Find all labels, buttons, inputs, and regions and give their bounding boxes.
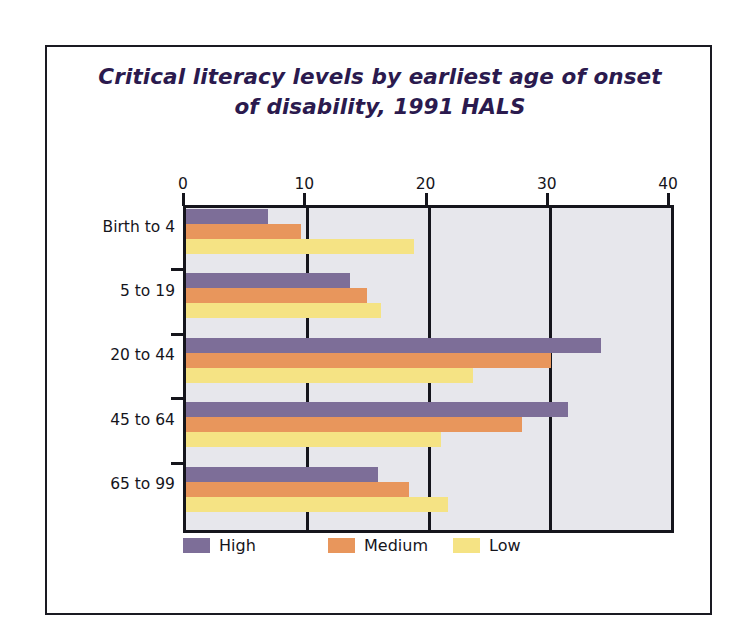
legend-label-medium: Medium bbox=[364, 536, 428, 555]
bar-5-to-19-high bbox=[186, 273, 350, 288]
legend-item-low[interactable]: Low bbox=[453, 534, 521, 556]
legend-swatch-high-icon bbox=[183, 538, 210, 553]
chart-figure: Critical literacy levels by earliest age… bbox=[0, 0, 733, 644]
x-tick-label-30: 30 bbox=[517, 175, 577, 193]
bar-65-to-99-medium bbox=[186, 482, 409, 497]
legend-swatch-low-icon bbox=[453, 538, 480, 553]
bar-20-to-44-medium bbox=[186, 353, 551, 368]
bar-65-to-99-low bbox=[186, 497, 448, 512]
x-tick-label-40: 40 bbox=[638, 175, 698, 193]
x-tick-label-20: 20 bbox=[396, 175, 456, 193]
bar-20-to-44-high bbox=[186, 338, 601, 353]
y-axis-category-labels: Birth to 45 to 1920 to 4445 to 6465 to 9… bbox=[8, 0, 175, 644]
category-label-birth-to-4: Birth to 4 bbox=[15, 218, 175, 236]
category-label-45-to-64: 45 to 64 bbox=[15, 411, 175, 429]
gridline-30 bbox=[549, 208, 552, 530]
bar-45-to-64-medium bbox=[186, 417, 522, 432]
x-tick-label-10: 10 bbox=[274, 175, 334, 193]
bar-45-to-64-high bbox=[186, 402, 568, 417]
bar-birth-to-4-medium bbox=[186, 224, 301, 239]
chart-legend: HighMediumLow bbox=[183, 534, 583, 558]
bar-5-to-19-medium bbox=[186, 288, 367, 303]
plot-area bbox=[183, 205, 674, 533]
legend-label-low: Low bbox=[489, 536, 521, 555]
category-label-5-to-19: 5 to 19 bbox=[15, 282, 175, 300]
legend-label-high: High bbox=[219, 536, 256, 555]
bar-45-to-64-low bbox=[186, 432, 441, 447]
bar-65-to-99-high bbox=[186, 467, 378, 482]
bar-20-to-44-low bbox=[186, 368, 473, 383]
legend-item-high[interactable]: High bbox=[183, 534, 256, 556]
bar-birth-to-4-low bbox=[186, 239, 414, 254]
bar-birth-to-4-high bbox=[186, 209, 268, 224]
legend-swatch-medium-icon bbox=[328, 538, 355, 553]
bar-5-to-19-low bbox=[186, 303, 381, 318]
category-label-20-to-44: 20 to 44 bbox=[15, 346, 175, 364]
legend-item-medium[interactable]: Medium bbox=[328, 534, 428, 556]
category-label-65-to-99: 65 to 99 bbox=[15, 475, 175, 493]
